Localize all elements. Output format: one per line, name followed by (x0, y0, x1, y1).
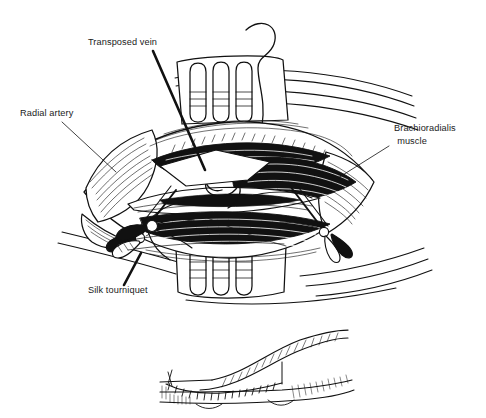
label-radial-artery: Radial artery (20, 108, 74, 118)
label-brachioradialis-line2: muscle (397, 136, 427, 146)
surgical-illustration: Transposed vein Radial artery Brachiorad… (0, 0, 486, 418)
retractor-top (177, 56, 288, 124)
label-transposed-vein: Transposed vein (88, 37, 157, 47)
label-silk-tourniquet: Silk tourniquet (88, 285, 148, 295)
label-brachioradialis-line1: Brachioradialis (394, 123, 456, 133)
